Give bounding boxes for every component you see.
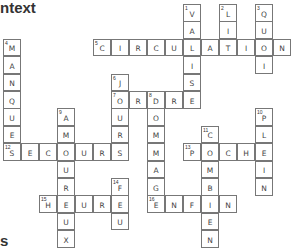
- crossword-cell[interactable]: O: [201, 143, 219, 161]
- crossword-cell[interactable]: H: [237, 143, 255, 161]
- crossword-cell[interactable]: G: [147, 178, 165, 196]
- crossword-cell[interactable]: E: [3, 126, 21, 144]
- crossword-cell[interactable]: M: [147, 143, 165, 161]
- cell-letter: M: [4, 44, 20, 53]
- crossword-cell[interactable]: O: [255, 39, 273, 57]
- crossword-cell[interactable]: S: [111, 143, 129, 161]
- crossword-cell[interactable]: 9A: [57, 108, 75, 126]
- crossword-cell[interactable]: U: [111, 213, 129, 231]
- crossword-cell[interactable]: I: [183, 56, 201, 74]
- crossword-cell[interactable]: C: [219, 143, 237, 161]
- crossword-cell[interactable]: E: [183, 91, 201, 109]
- crossword-cell[interactable]: U: [3, 108, 21, 126]
- crossword-cell[interactable]: R: [93, 143, 111, 161]
- crossword-cell[interactable]: C: [39, 143, 57, 161]
- crossword-cell[interactable]: 11C: [201, 126, 219, 144]
- cell-letter: I: [112, 44, 128, 53]
- crossword-cell[interactable]: M: [147, 126, 165, 144]
- crossword-cell[interactable]: E: [57, 195, 75, 213]
- crossword-cell[interactable]: U: [57, 161, 75, 179]
- crossword-cell[interactable]: 6J: [111, 74, 129, 92]
- cell-letter: C: [94, 44, 110, 53]
- cell-letter: M: [58, 131, 74, 140]
- crossword-cell[interactable]: I: [255, 56, 273, 74]
- crossword-cell[interactable]: F: [183, 195, 201, 213]
- crossword-cell[interactable]: N: [201, 230, 219, 248]
- cell-letter: O: [112, 97, 128, 106]
- cell-letter: I: [256, 166, 272, 175]
- cell-letter: R: [94, 201, 110, 210]
- crossword-cell[interactable]: A: [147, 161, 165, 179]
- crossword-cell[interactable]: 7O: [111, 91, 129, 109]
- crossword-cell[interactable]: E: [201, 213, 219, 231]
- crossword-cell[interactable]: Q: [3, 91, 21, 109]
- crossword-cell[interactable]: X: [57, 230, 75, 248]
- crossword-cell[interactable]: A: [3, 56, 21, 74]
- crossword-cell[interactable]: 10P: [255, 108, 273, 126]
- crossword-cell[interactable]: U: [255, 21, 273, 39]
- crossword-cell[interactable]: N: [219, 195, 237, 213]
- cell-letter: J: [112, 79, 128, 88]
- cell-letter: E: [22, 149, 38, 158]
- crossword-cell[interactable]: I: [111, 39, 129, 57]
- cell-letter: S: [4, 149, 20, 158]
- crossword-cell[interactable]: B: [201, 178, 219, 196]
- crossword-cell[interactable]: 12S: [3, 143, 21, 161]
- crossword-cell[interactable]: U: [165, 39, 183, 57]
- cell-letter: L: [220, 10, 236, 19]
- crossword-cell[interactable]: T: [219, 39, 237, 57]
- crossword-cell[interactable]: I: [201, 195, 219, 213]
- crossword-cell[interactable]: O: [147, 108, 165, 126]
- cell-letter: C: [220, 149, 236, 158]
- cell-letter: U: [76, 201, 92, 210]
- crossword-cell[interactable]: I: [255, 161, 273, 179]
- crossword-cell[interactable]: L: [255, 126, 273, 144]
- crossword-cell[interactable]: M: [201, 161, 219, 179]
- crossword-cell[interactable]: A: [201, 39, 219, 57]
- cell-letter: R: [130, 97, 146, 106]
- cell-letter: E: [112, 201, 128, 210]
- crossword-cell[interactable]: R: [57, 178, 75, 196]
- crossword-cell[interactable]: 16E: [147, 195, 165, 213]
- cell-letter: X: [58, 236, 74, 245]
- crossword-cell[interactable]: U: [111, 108, 129, 126]
- crossword-cell[interactable]: 4M: [3, 39, 21, 57]
- crossword-cell[interactable]: C: [147, 39, 165, 57]
- cell-letter: O: [58, 149, 74, 158]
- crossword-cell[interactable]: O: [57, 143, 75, 161]
- crossword-cell[interactable]: E: [111, 195, 129, 213]
- crossword-cell[interactable]: 3Q: [255, 4, 273, 22]
- crossword-cell[interactable]: S: [183, 74, 201, 92]
- cell-letter: A: [58, 114, 74, 123]
- crossword-cell[interactable]: L: [183, 39, 201, 57]
- crossword-cell[interactable]: 5C: [93, 39, 111, 57]
- crossword-cell[interactable]: R: [129, 39, 147, 57]
- crossword-cell[interactable]: M: [57, 126, 75, 144]
- crossword-cell[interactable]: N: [165, 195, 183, 213]
- crossword-cell[interactable]: E: [255, 143, 273, 161]
- crossword-cell[interactable]: I: [219, 21, 237, 39]
- cell-letter: S: [184, 79, 200, 88]
- crossword-cell[interactable]: R: [111, 126, 129, 144]
- crossword-cell[interactable]: 2L: [219, 4, 237, 22]
- crossword-cell[interactable]: R: [93, 195, 111, 213]
- crossword-cell[interactable]: I: [237, 39, 255, 57]
- crossword-cell[interactable]: 1V: [183, 4, 201, 22]
- crossword-cell[interactable]: N: [255, 178, 273, 196]
- cell-letter: N: [256, 184, 272, 193]
- crossword-cell[interactable]: 8D: [147, 91, 165, 109]
- crossword-cell[interactable]: R: [165, 91, 183, 109]
- crossword-cell[interactable]: 13P: [183, 143, 201, 161]
- cell-letter: M: [148, 131, 164, 140]
- crossword-cell[interactable]: A: [183, 21, 201, 39]
- crossword-cell[interactable]: N: [273, 39, 291, 57]
- crossword-cell[interactable]: R: [129, 91, 147, 109]
- crossword-cell[interactable]: 14F: [111, 178, 129, 196]
- crossword-cell[interactable]: U: [75, 143, 93, 161]
- crossword-cell[interactable]: U: [75, 195, 93, 213]
- crossword-cell[interactable]: E: [21, 143, 39, 161]
- crossword-cell[interactable]: N: [3, 74, 21, 92]
- crossword-cell[interactable]: 15H: [39, 195, 57, 213]
- crossword-cell[interactable]: U: [57, 213, 75, 231]
- cell-letter: E: [256, 149, 272, 158]
